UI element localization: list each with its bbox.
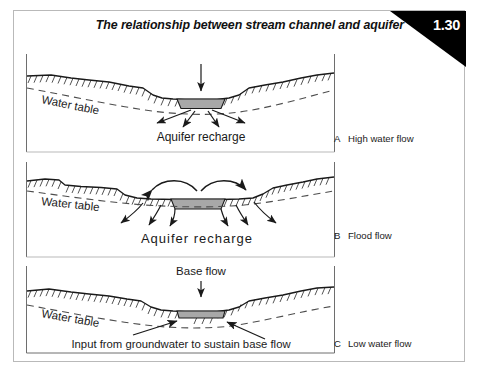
- panel-c-diagram: Base flow: [25, 263, 336, 359]
- legend-letter-b: B: [334, 230, 348, 241]
- figure-number-corner: 1.30: [390, 11, 466, 67]
- page-title: The relationship between stream channel …: [96, 18, 404, 32]
- panel-b-stream-channel: [171, 199, 225, 209]
- legend-letter-a: A: [334, 133, 348, 144]
- panel-a-recharge-label: Aquifer recharge: [157, 130, 246, 144]
- legend-item-b: BFlood flow: [334, 230, 392, 241]
- panel-c-groundwater-input-label: Input from groundwater to sustain base f…: [71, 338, 291, 350]
- panel-c-base-flow-label: Base flow: [176, 265, 227, 277]
- panel-c-low-water-flow: Base flow: [25, 263, 336, 359]
- legend-text-b: Flood flow: [348, 230, 392, 241]
- legend-item-a: AHigh water flow: [334, 133, 414, 144]
- panel-c-stream-channel: [177, 311, 225, 318]
- panel-b-recharge-label: Aquifer recharge: [141, 231, 253, 246]
- figure-number: 1.30: [433, 17, 460, 33]
- legend-text-a: High water flow: [348, 133, 414, 144]
- panel-a-stream-channel: [177, 99, 225, 109]
- legend-item-c: CLow water flow: [334, 338, 411, 349]
- legend-text-c: Low water flow: [348, 338, 411, 349]
- panel-b-flood-flow: Water table Aquifer recharge: [25, 159, 336, 261]
- figure-frame: The relationship between stream channel …: [13, 10, 465, 362]
- panel-a-diagram: Water table Aquifer recharge: [25, 51, 336, 156]
- panel-a-high-water-flow: Water table Aquifer recharge: [25, 51, 336, 156]
- figure-title-bar: The relationship between stream channel …: [14, 11, 466, 47]
- legend-letter-c: C: [334, 338, 348, 349]
- panel-b-diagram: Water table Aquifer recharge: [25, 159, 336, 261]
